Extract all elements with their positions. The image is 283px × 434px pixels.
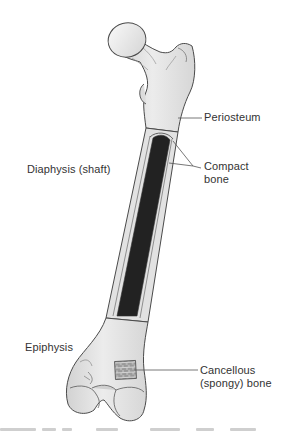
cropped-caption-remnant: [0, 426, 283, 434]
label-epiphysis: Epiphysis: [25, 341, 73, 354]
label-cancellous-line2: (spongy) bone: [200, 377, 272, 390]
label-periosteum: Periosteum: [204, 111, 261, 124]
cancellous-bone-window: [115, 360, 137, 379]
distal-epiphysis: [66, 318, 148, 421]
label-compact-bone-line2: bone: [204, 173, 249, 186]
diaphysis-shaft: [106, 128, 178, 322]
label-cancellous-line1: Cancellous: [200, 364, 272, 377]
label-diaphysis: Diaphysis (shaft): [27, 163, 111, 176]
label-cancellous-bone: Cancellous (spongy) bone: [200, 364, 272, 390]
label-compact-bone: Compact bone: [204, 160, 249, 186]
label-compact-bone-line1: Compact: [204, 160, 249, 173]
